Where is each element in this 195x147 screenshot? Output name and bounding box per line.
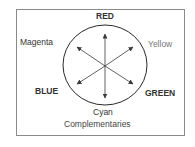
label-red: RED (96, 11, 114, 21)
arrow-green (105, 66, 133, 84)
label-yellow: Yellow (148, 39, 172, 49)
label-cyan: Cyan (93, 107, 113, 117)
label-blue: BLUE (35, 86, 58, 96)
label-green: GREEN (145, 88, 175, 98)
arrow-blue (77, 66, 105, 84)
complementary-arrows (77, 34, 133, 98)
diagram-caption: Complementaries (64, 119, 131, 129)
label-magenta: Magenta (20, 37, 53, 47)
arrow-magenta (77, 47, 105, 66)
arrow-yellow (105, 47, 133, 66)
